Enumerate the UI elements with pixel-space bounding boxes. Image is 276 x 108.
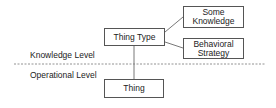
knowledge-level-label: Knowledge Level [30,50,95,60]
operational-level-label: Operational Level [30,70,97,80]
edge-thingtype-someknowledge [165,17,183,32]
node-behavioral-strategy-label-2: Strategy [198,49,230,58]
node-behavioral-strategy: Behavioral Strategy [183,38,244,59]
node-thing-type: Thing Type [104,28,165,46]
node-thing: Thing [104,79,164,98]
edge-thingtype-behavioralstrategy [165,42,183,48]
node-some-knowledge: Some Knowledge [183,6,244,28]
node-some-knowledge-label-2: Knowledge [192,17,234,26]
node-thing-label: Thing [123,84,144,93]
node-thing-type-label: Thing Type [114,33,156,42]
